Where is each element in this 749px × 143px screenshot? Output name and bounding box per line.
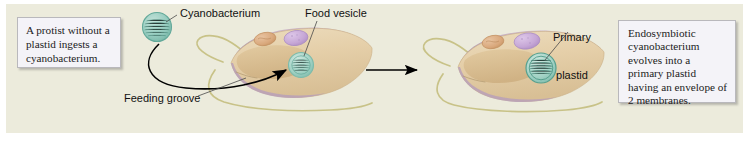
callout-left: A protist without a plastid ingests a cy… [17,17,121,68]
cyanobacterium-free [143,13,172,42]
label-primary-plastid-line1: Primary [553,31,591,44]
label-primary-plastid: Primary plastid [553,6,591,106]
callout-right: Endosymbiotic cyanobacterium evolves int… [618,20,736,103]
label-feeding-groove: Feeding groove [124,92,200,105]
endosymbiosis-figure: A protist without a plastid ingests a cy… [0,0,749,143]
leader-feeding-groove [198,78,246,96]
label-food-vesicle: Food vesicle [305,7,367,20]
food-vesicle-1 [289,53,314,78]
label-cyanobacterium: Cyanobacterium [180,7,260,20]
primary-plastid [526,53,556,83]
label-primary-plastid-line2: plastid [553,69,591,82]
